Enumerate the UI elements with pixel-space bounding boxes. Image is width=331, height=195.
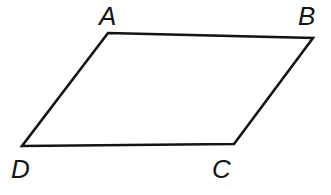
vertex-label-d: D xyxy=(11,156,30,182)
vertex-label-c: C xyxy=(212,156,231,182)
geometry-figure-canvas: A B C D xyxy=(0,0,331,195)
figure-background xyxy=(0,0,331,195)
vertex-label-a: A xyxy=(99,3,116,29)
parallelogram-diagram xyxy=(0,0,331,195)
vertex-label-b: B xyxy=(298,3,315,29)
